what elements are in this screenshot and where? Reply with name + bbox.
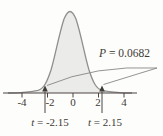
p-value-label: P = 0.0682 bbox=[99, 47, 150, 59]
t-left-label: t = -2.15 bbox=[31, 116, 69, 128]
x-tick-label-0: 0 bbox=[70, 96, 76, 108]
t-right-value: = 2.15 bbox=[91, 116, 122, 128]
t-marker-right-arrowhead bbox=[99, 86, 105, 92]
p-value-text: = 0.0682 bbox=[106, 47, 150, 59]
x-tick-label-4: 4 bbox=[121, 96, 127, 108]
p-variable: P bbox=[99, 47, 106, 59]
x-tick-label-neg2: -2 bbox=[45, 96, 54, 108]
x-tick-label-2: 2 bbox=[95, 96, 101, 108]
t-distribution-figure: P = 0.0682 -4 -2 0 2 4 t = -2.15 t = 2.1… bbox=[0, 0, 163, 136]
distribution-plot bbox=[0, 0, 163, 136]
p-callout-right-line bbox=[104, 68, 158, 85]
x-tick-label-neg4: -4 bbox=[17, 96, 26, 108]
t-right-label: t = 2.15 bbox=[88, 116, 122, 128]
t-left-value: = -2.15 bbox=[34, 116, 69, 128]
